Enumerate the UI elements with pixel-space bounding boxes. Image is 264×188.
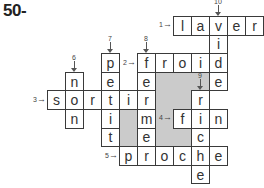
grid-cell[interactable]: e [101, 72, 120, 92]
grid-cell[interactable]: i [119, 90, 138, 110]
arrow-right-icon: → [127, 57, 136, 67]
grid-cell[interactable]: e [209, 72, 228, 92]
arrow-right-icon: → [163, 19, 172, 29]
grid-cell[interactable]: m [137, 109, 156, 129]
grid-cell[interactable]: t [101, 128, 120, 148]
arrow-down-icon [197, 86, 203, 90]
grid-cell[interactable]: a [191, 16, 210, 36]
shaded-square [155, 128, 174, 148]
grid-cell[interactable]: o [155, 146, 174, 166]
grid-cell[interactable]: p [101, 53, 120, 73]
arrow-down-icon [215, 12, 221, 16]
grid-cell[interactable]: e [137, 72, 156, 92]
grid-cell[interactable]: i [191, 109, 210, 129]
grid-cell[interactable]: d [209, 53, 228, 73]
grid-cell[interactable]: r [137, 146, 156, 166]
crossword-grid: laver1→froid2→sortir3→fin4→proche5→nn6pe… [0, 0, 264, 188]
clue-number-down: 9 [191, 72, 209, 90]
clue-number-down: 8 [137, 35, 155, 53]
shaded-square [173, 72, 192, 92]
shaded-square [119, 128, 138, 148]
grid-cell[interactable]: r [191, 90, 210, 110]
grid-cell[interactable]: n [65, 109, 84, 129]
grid-cell[interactable]: r [155, 53, 174, 73]
clue-number-across: 3→ [33, 95, 46, 104]
grid-cell[interactable]: i [101, 109, 120, 129]
grid-cell[interactable]: e [209, 146, 228, 166]
arrow-right-icon: → [109, 150, 118, 160]
grid-cell[interactable]: t [101, 90, 120, 110]
grid-cell[interactable]: r [83, 90, 102, 110]
shaded-square [155, 90, 174, 110]
grid-cell[interactable]: o [173, 53, 192, 73]
grid-cell[interactable]: i [209, 35, 228, 55]
clue-number-across: 5→ [105, 151, 118, 160]
shaded-square [173, 90, 192, 110]
clue-number-across: 2→ [123, 58, 136, 67]
grid-cell[interactable]: f [173, 109, 192, 129]
grid-cell[interactable]: e [227, 16, 246, 36]
grid-cell[interactable]: e [191, 165, 210, 185]
clue-number-down: 10 [209, 0, 227, 16]
arrow-right-icon: → [163, 112, 172, 122]
grid-cell[interactable]: n [65, 72, 84, 92]
grid-cell[interactable]: l [173, 16, 192, 36]
arrow-right-icon: → [37, 94, 46, 104]
shaded-square [119, 109, 138, 129]
grid-cell[interactable]: h [191, 146, 210, 166]
grid-cell[interactable]: v [209, 16, 228, 36]
arrow-down-icon [107, 49, 113, 53]
grid-cell[interactable]: i [191, 53, 210, 73]
grid-cell[interactable]: p [119, 146, 138, 166]
arrow-down-icon [143, 49, 149, 53]
grid-cell[interactable]: c [191, 128, 210, 148]
shaded-square [155, 72, 174, 92]
clue-number-across: 4→ [159, 113, 172, 122]
clue-number-down: 7 [101, 35, 119, 53]
grid-cell[interactable]: s [47, 90, 66, 110]
grid-cell[interactable]: o [65, 90, 84, 110]
grid-cell[interactable]: e [137, 128, 156, 148]
shaded-square [173, 128, 192, 148]
arrow-down-icon [71, 68, 77, 72]
clue-number-down: 6 [65, 54, 83, 72]
grid-cell[interactable]: c [173, 146, 192, 166]
clue-number-across: 1→ [159, 20, 172, 29]
grid-cell[interactable]: r [245, 16, 264, 36]
grid-cell[interactable]: f [137, 53, 156, 73]
grid-cell[interactable]: r [137, 90, 156, 110]
grid-cell[interactable]: n [209, 109, 228, 129]
